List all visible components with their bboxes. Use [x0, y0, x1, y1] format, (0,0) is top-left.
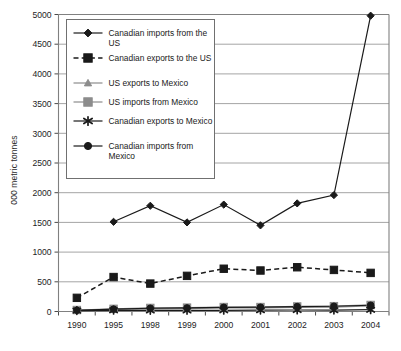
y-tick-label: 1000 — [32, 247, 51, 257]
square-marker — [84, 98, 92, 106]
legend-item-3[interactable]: US imports from Mexico — [74, 97, 199, 107]
legend-label-5: Canadian imports from — [109, 141, 194, 151]
data-point-5-8 — [367, 302, 374, 309]
y-tick-label: 4500 — [32, 39, 51, 49]
data-point-5-6 — [294, 303, 301, 310]
x-tick-label: 2000 — [214, 320, 233, 330]
data-point-0-8 — [367, 12, 374, 19]
data-point-0-6 — [294, 200, 301, 207]
data-point-1-4 — [220, 265, 227, 272]
x-tick-label: 2003 — [324, 320, 343, 330]
data-point-1-7 — [330, 266, 337, 273]
x-tick-label: 1990 — [67, 320, 86, 330]
data-point-5-4 — [220, 304, 227, 311]
x-tick-label: 2004 — [361, 320, 380, 330]
data-point-5-7 — [331, 303, 338, 310]
y-tick-labels-group: 0500100015002000250030003500400045005000 — [32, 10, 51, 317]
data-point-5-3 — [184, 305, 191, 312]
data-point-1-6 — [293, 264, 300, 271]
x-tick-label: 2002 — [288, 320, 307, 330]
chart-figure: 000 metric tonnes 0500100015002000250030… — [0, 0, 401, 351]
data-point-1-5 — [257, 267, 264, 274]
legend-label-5-line2: Mexico — [109, 151, 136, 161]
y-tick-label: 3500 — [32, 99, 51, 109]
data-point-5-1 — [110, 306, 117, 313]
legend-label-1: Canadian exports to the US — [109, 53, 212, 63]
y-tick-label: 0 — [47, 307, 52, 317]
legend-label-0: Canadian imports from the — [109, 28, 208, 38]
legend-label-0-line2: US — [109, 38, 121, 48]
y-tick-label: 3000 — [32, 129, 51, 139]
y-tick-label: 2500 — [32, 158, 51, 168]
y-tick-label: 5000 — [32, 10, 51, 20]
data-point-1-1 — [110, 273, 117, 280]
data-point-0-1 — [110, 218, 117, 225]
data-point-0-5 — [257, 222, 264, 229]
data-point-5-5 — [257, 304, 264, 311]
data-point-1-3 — [183, 272, 190, 279]
line-chart-svg: 0500100015002000250030003500400045005000… — [0, 0, 401, 351]
y-axis-title: 000 metric tonnes — [9, 95, 19, 245]
y-tick-label: 500 — [37, 277, 52, 287]
x-tick-label: 2001 — [251, 320, 270, 330]
x-tick-labels-group: 199019951998199920002001200220032004 — [67, 320, 380, 330]
data-point-1-8 — [367, 269, 374, 276]
y-tick-label: 1500 — [32, 218, 51, 228]
square-marker — [84, 54, 92, 62]
legend-label-4: Canadian exports to Mexico — [109, 116, 213, 126]
legend-label-3: US imports from Mexico — [109, 97, 199, 107]
data-point-1-0 — [73, 294, 80, 301]
circle-marker — [84, 142, 91, 149]
y-axis-title-wrap: 000 metric tonnes — [0, 0, 18, 351]
x-tick-label: 1995 — [104, 320, 123, 330]
y-tick-label: 2000 — [32, 188, 51, 198]
x-tick-label: 1999 — [177, 320, 196, 330]
y-tick-label: 4000 — [32, 69, 51, 79]
data-point-5-0 — [74, 307, 81, 314]
data-point-0-3 — [183, 219, 190, 226]
data-point-1-2 — [147, 280, 154, 287]
y-tick-marks-group — [55, 15, 59, 312]
data-point-0-2 — [147, 202, 154, 209]
data-point-0-4 — [220, 201, 227, 208]
data-point-5-2 — [147, 305, 154, 312]
legend-label-2: US exports to Mexico — [109, 78, 189, 88]
x-tick-label: 1998 — [141, 320, 160, 330]
